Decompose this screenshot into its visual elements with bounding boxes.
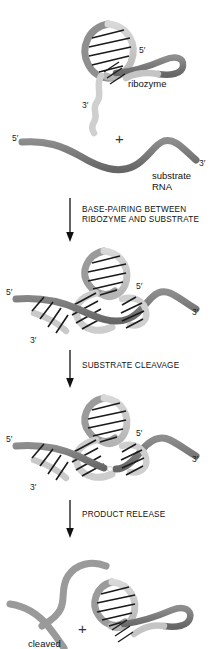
- complex-substrate-5-prime-label: 5′: [6, 287, 12, 297]
- substrate-rna-strand: [22, 141, 196, 170]
- cleavage-site-marker: [107, 466, 112, 471]
- cleaved-left-arm: [34, 460, 66, 478]
- products-illustration: [0, 548, 215, 649]
- substrate-5-prime-label: 5′: [12, 133, 18, 143]
- transition-base-pairing: BASE-PAIRING BETWEEN RIBOZYME AND SUBSTR…: [0, 196, 215, 244]
- reactants-illustration: [0, 0, 215, 195]
- stage-products: + cleaved: [0, 548, 215, 649]
- substrate-3-prime-label: 3′: [199, 158, 205, 168]
- cleaved-ribozyme-5-prime-label: 5′: [136, 428, 142, 438]
- cleaved-complex-illustration: [0, 392, 215, 492]
- stage-reactants: 5′ 3′ ribozyme 5′ 3′ substrate RNA +: [0, 0, 215, 195]
- base-pairing-text: BASE-PAIRING BETWEEN RIBOZYME AND SUBSTR…: [82, 205, 199, 224]
- cleaved-substrate-3-prime-label: 3′: [192, 454, 198, 464]
- reactants-plus-operator: +: [115, 130, 124, 148]
- complex-ribozyme-5-prime-label: 5′: [136, 281, 142, 291]
- complex-ribozyme-3-prime-label: 3′: [30, 335, 36, 345]
- ribozyme-tail-3prime: [92, 76, 101, 133]
- cleaved-substrate-5-prime-label: 5′: [6, 434, 12, 444]
- ribozyme-label: ribozyme: [128, 78, 167, 89]
- product-ribozyme-arm-tip: [134, 625, 164, 634]
- cleaved-product-label: cleaved: [28, 638, 61, 649]
- products-plus-operator: +: [78, 620, 87, 638]
- product-release-text: PRODUCT RELEASE: [82, 510, 165, 520]
- complex-substrate-3-prime-label: 3′: [192, 307, 198, 317]
- cleaved-ribozyme-3-prime-label: 3′: [30, 482, 36, 492]
- complex-illustration: [0, 245, 215, 345]
- ribozyme-5-prime-label: 5′: [139, 45, 145, 55]
- transition-cleavage: SUBSTRATE CLEAVAGE: [0, 348, 215, 390]
- hairpin-base-pairs: [89, 30, 131, 72]
- ribozyme-3-prime-label: 3′: [82, 100, 88, 110]
- cleavage-text: SUBSTRATE CLEAVAGE: [82, 361, 179, 371]
- stage-base-paired-complex: 5′ 3′ 5′ 3′: [0, 245, 215, 345]
- transition-product-release: PRODUCT RELEASE: [0, 496, 215, 540]
- stage-cleaved-complex: 5′ 3′ 5′ 3′: [0, 392, 215, 492]
- substrate-rna-label: substrate RNA: [152, 170, 191, 192]
- complex-left-arm: [34, 313, 66, 331]
